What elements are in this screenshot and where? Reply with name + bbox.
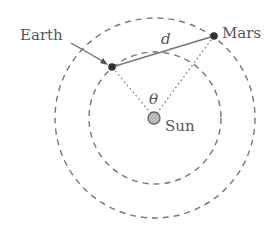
mars-label: Mars	[222, 24, 261, 42]
earth-label: Earth	[20, 26, 63, 44]
earth-pointer-line	[71, 43, 104, 62]
earth-dot-icon	[108, 63, 116, 71]
earth-pointer-arrowhead	[100, 58, 108, 65]
sun-label: Sun	[165, 117, 195, 135]
angle-label: θ	[149, 90, 158, 108]
sun-mars-dotted-line	[154, 36, 214, 117]
sun-icon	[148, 112, 160, 124]
mars-dot-icon	[210, 32, 218, 40]
sun-earth-dotted-line	[112, 67, 154, 117]
distance-label: d	[161, 30, 171, 48]
orbit-diagram: Earth Mars Sun d θ	[0, 0, 278, 233]
